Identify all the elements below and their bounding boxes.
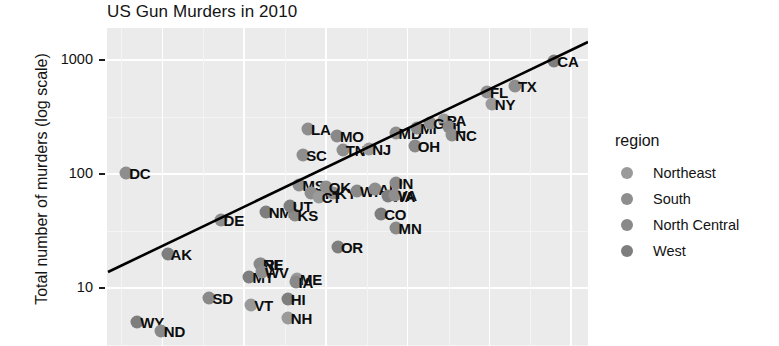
legend-label: West [653, 243, 686, 259]
legend-item-north-central[interactable]: North Central [614, 212, 774, 238]
legend-key [614, 186, 640, 212]
legend-label: Northeast [653, 165, 716, 181]
chart-title: US Gun Murders in 2010 [107, 2, 297, 22]
legend-label: North Central [653, 217, 739, 233]
legend-item-west[interactable]: West [614, 238, 774, 264]
legend: region NortheastSouthNorth CentralWest [614, 132, 774, 264]
chart-root: US Gun Murders in 2010 Total number of m… [0, 0, 779, 346]
legend-swatch-dot-icon [621, 245, 633, 257]
regression-line [107, 28, 588, 346]
y-tick-mark [99, 173, 105, 175]
legend-rows: NortheastSouthNorth CentralWest [614, 160, 774, 264]
legend-item-northeast[interactable]: Northeast [614, 160, 774, 186]
y-tick-label: 100 [69, 165, 93, 181]
legend-title: region [615, 132, 774, 150]
y-tick-label: 1000 [61, 51, 93, 67]
legend-key [614, 212, 640, 238]
legend-swatch-dot-icon [621, 219, 633, 231]
plot-panel: DCDEAKRIMTMESDHIWYNHNDVTNEWVIAORNMKSMNCO… [107, 28, 588, 346]
y-tick-mark [99, 59, 105, 61]
legend-item-south[interactable]: South [614, 186, 774, 212]
y-tick-label: 10 [77, 279, 93, 295]
legend-swatch-dot-icon [621, 167, 633, 179]
legend-key [614, 238, 640, 264]
legend-key [614, 160, 640, 186]
legend-label: South [653, 191, 691, 207]
legend-swatch-dot-icon [621, 193, 633, 205]
y-axis-ticks: 101001000 [0, 0, 107, 346]
y-tick-mark [99, 287, 105, 289]
